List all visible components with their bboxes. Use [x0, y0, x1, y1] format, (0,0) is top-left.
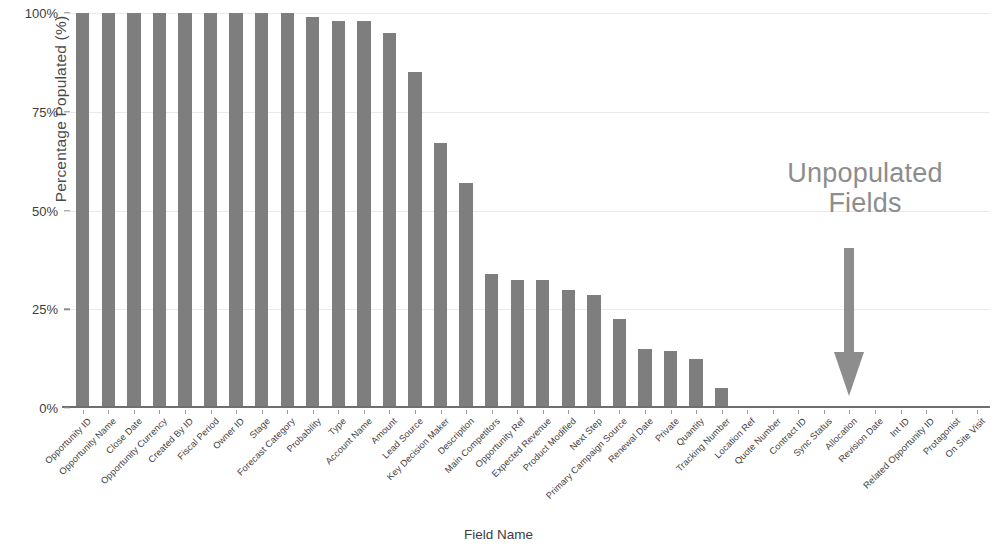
x-tick-mark — [722, 410, 723, 414]
bar — [434, 143, 447, 408]
y-tick-label: 50% — [0, 203, 58, 218]
bar — [562, 290, 575, 409]
y-tick-mark — [64, 210, 70, 211]
bar — [357, 21, 370, 408]
bar — [306, 17, 319, 408]
x-tick-label: Int ID — [888, 416, 911, 439]
x-tick-mark — [952, 410, 953, 414]
bar — [76, 13, 89, 408]
y-tick-label: 100% — [0, 6, 58, 21]
bar — [204, 13, 217, 408]
x-tick-mark — [108, 410, 109, 414]
x-tick-mark — [389, 410, 390, 414]
x-tick-mark — [159, 410, 160, 414]
x-tick-mark — [875, 410, 876, 414]
y-tick-mark — [64, 309, 70, 310]
bar — [689, 359, 702, 408]
y-tick-label: 0% — [0, 401, 58, 416]
x-tick-mark — [492, 410, 493, 414]
bar — [613, 319, 626, 408]
bar — [511, 280, 524, 408]
bar — [383, 33, 396, 408]
x-tick-mark — [185, 410, 186, 414]
x-tick-mark — [977, 410, 978, 414]
bar — [127, 13, 140, 408]
bar — [664, 351, 677, 408]
x-tick-mark — [517, 410, 518, 414]
bar — [408, 72, 421, 408]
bar — [102, 13, 115, 408]
x-tick-mark — [236, 410, 237, 414]
bar — [281, 13, 294, 408]
y-tick-mark — [64, 12, 70, 13]
x-tick-mark — [901, 410, 902, 414]
bar — [332, 21, 345, 408]
x-axis-line — [62, 406, 990, 408]
x-tick-label: Type — [327, 416, 348, 437]
x-tick-mark — [926, 410, 927, 414]
x-tick-mark — [134, 410, 135, 414]
x-tick-mark — [441, 410, 442, 414]
x-tick-mark — [338, 410, 339, 414]
down-arrow-icon — [832, 248, 866, 398]
x-tick-mark — [287, 410, 288, 414]
x-tick-mark — [364, 410, 365, 414]
x-tick-mark — [466, 410, 467, 414]
x-tick-mark — [262, 410, 263, 414]
x-tick-mark — [798, 410, 799, 414]
bar — [255, 13, 268, 408]
annotation-line-2: Fields — [760, 188, 970, 218]
x-tick-mark — [83, 410, 84, 414]
x-tick-mark — [619, 410, 620, 414]
y-tick-mark — [64, 111, 70, 112]
bar — [587, 295, 600, 408]
x-tick-mark — [849, 410, 850, 414]
x-tick-mark — [696, 410, 697, 414]
bar-chart: Percentage Populated (%) 0%25%50%75%100%… — [0, 0, 997, 553]
x-tick-mark — [568, 410, 569, 414]
bar — [459, 183, 472, 408]
x-tick-mark — [543, 410, 544, 414]
y-tick-label: 25% — [0, 302, 58, 317]
annotation-line-1: Unpopulated — [760, 158, 970, 188]
x-tick-mark — [645, 410, 646, 414]
bar — [485, 274, 498, 408]
x-tick-mark — [824, 410, 825, 414]
unpopulated-fields-annotation: Unpopulated Fields — [760, 158, 970, 218]
bar — [536, 280, 549, 408]
x-tick-label: Account Name — [323, 416, 374, 467]
bar — [178, 13, 191, 408]
x-axis-labels: Opportunity IDOpportunity NameClose Date… — [70, 410, 990, 520]
x-tick-mark — [773, 410, 774, 414]
bar — [638, 349, 651, 408]
y-tick-label: 75% — [0, 104, 58, 119]
x-tick-mark — [747, 410, 748, 414]
bar — [153, 13, 166, 408]
x-tick-mark — [415, 410, 416, 414]
y-tick-mark — [64, 407, 70, 408]
bar — [715, 388, 728, 408]
x-tick-mark — [594, 410, 595, 414]
x-tick-mark — [671, 410, 672, 414]
bar — [229, 13, 242, 408]
x-tick-mark — [313, 410, 314, 414]
x-axis-title: Field Name — [0, 527, 997, 542]
x-tick-mark — [211, 410, 212, 414]
